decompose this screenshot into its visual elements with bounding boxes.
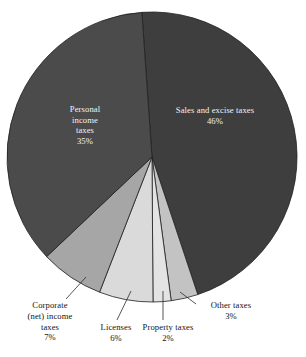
slice-label-other-name: Other taxes (198, 300, 264, 311)
slice-label-other-value: 3% (198, 311, 264, 322)
pie-chart-figure: Sales and excise taxes 46% Personal inco… (0, 0, 306, 357)
slice-label-corporate-net-income-taxes: Corporate (net) income taxes 7% (8, 300, 92, 343)
slice-label-other-taxes: Other taxes 3% (198, 300, 264, 322)
slice-label-corporate-line1: Corporate (8, 300, 92, 311)
slice-label-property-taxes: Property taxes 2% (133, 322, 203, 344)
pie-slice-group (7, 12, 297, 302)
slice-label-property-name: Property taxes (133, 322, 203, 333)
slice-label-corporate-value: 7% (8, 332, 92, 343)
slice-label-property-value: 2% (133, 333, 203, 344)
slice-label-corporate-line2: (net) income (8, 311, 92, 322)
slice-label-corporate-line3: taxes (8, 322, 92, 333)
